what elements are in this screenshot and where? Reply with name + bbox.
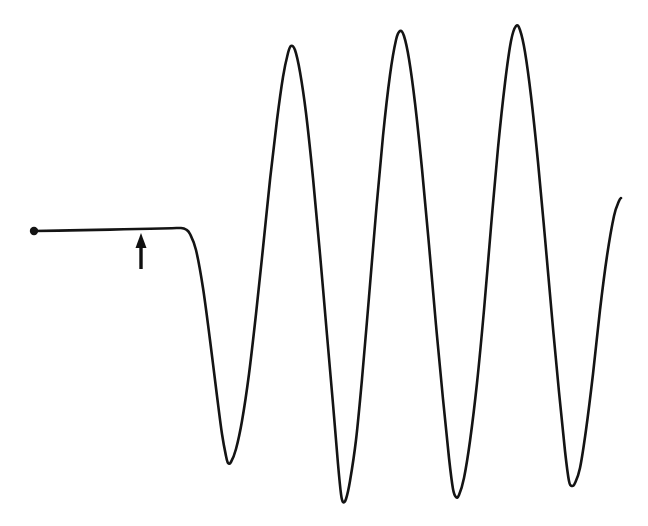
onset-arrow-shaft [139,246,142,269]
waveform-figure [0,0,648,526]
waveform-canvas [0,0,648,526]
start-dot [30,227,38,235]
figure-background [0,0,648,526]
